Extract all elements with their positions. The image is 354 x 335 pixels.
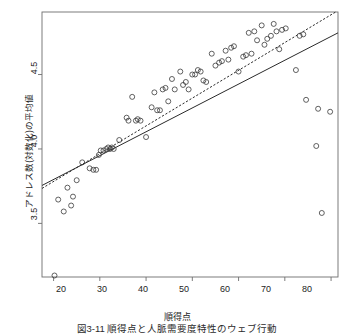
data-point (169, 76, 174, 81)
data-point (178, 69, 183, 74)
data-point (252, 29, 257, 34)
data-point (271, 21, 276, 26)
data-point (152, 90, 157, 95)
data-point (56, 197, 61, 202)
plot-frame (42, 12, 338, 277)
data-point (144, 135, 149, 140)
data-point (181, 82, 186, 87)
data-point (80, 160, 85, 165)
data-point (223, 48, 228, 53)
data-point (166, 99, 171, 104)
data-point (117, 138, 122, 143)
data-point (328, 109, 333, 114)
data-point (172, 87, 177, 92)
linear-regression (42, 33, 338, 186)
fitted-lines (42, 12, 338, 188)
loess-trend (42, 12, 336, 188)
data-point (149, 105, 154, 110)
data-point (319, 210, 324, 215)
data-point (249, 51, 254, 56)
data-point (316, 106, 321, 111)
data-point (65, 185, 70, 190)
data-point (274, 29, 279, 34)
axis-tick-marks (38, 75, 331, 281)
data-point (259, 23, 264, 28)
data-point (70, 194, 75, 199)
data-point (209, 51, 214, 56)
data-point (69, 203, 74, 208)
data-point (268, 33, 273, 38)
data-point (304, 97, 309, 102)
data-point (246, 30, 251, 35)
data-point (255, 38, 260, 43)
data-point (183, 79, 188, 84)
data-point (226, 57, 231, 62)
data-point (61, 209, 66, 214)
data-point (314, 143, 319, 148)
data-point (186, 87, 191, 92)
data-point (74, 178, 79, 183)
data-point (130, 94, 135, 99)
data-point (277, 47, 282, 52)
data-point (293, 68, 298, 73)
data-point-series (52, 21, 333, 278)
data-point (262, 42, 267, 47)
